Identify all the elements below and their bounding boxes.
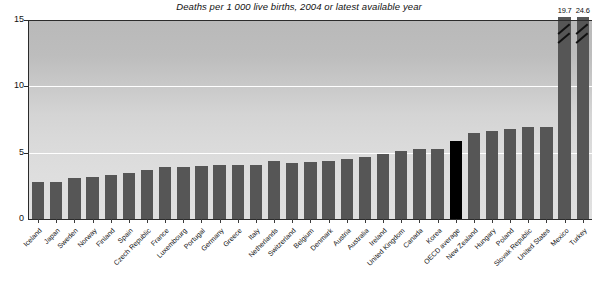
bar-series: 19.724.6 (29, 20, 592, 219)
bar-cell (29, 20, 47, 219)
bar-cell (102, 20, 120, 219)
bar-cell (447, 20, 465, 219)
y-tick-label-15: 15 (2, 14, 24, 24)
bar-korea[interactable] (431, 149, 443, 219)
category-label-cell: Canada (410, 223, 428, 281)
bar-cell (483, 20, 501, 219)
bar-value-label: 19.7 (558, 6, 572, 15)
axis-break-icon (557, 33, 572, 51)
category-label-cell: New Zealand (465, 223, 483, 281)
bar-cell (47, 20, 65, 219)
bar-cell (156, 20, 174, 219)
bar-cell (392, 20, 410, 219)
category-label-cell: Switzerland (283, 223, 301, 281)
category-label-cell: Denmark (320, 223, 338, 281)
category-label-cell: Turkey (574, 223, 592, 281)
bar-cell (338, 20, 356, 219)
bar-cell (174, 20, 192, 219)
category-label-cell: Austria (338, 223, 356, 281)
bar-cell (120, 20, 138, 219)
bar-cell (465, 20, 483, 219)
bar-cell (519, 20, 537, 219)
category-label-cell: United States (537, 223, 555, 281)
category-labels: IcelandJapanSwedenNorwayFinlandSpainCzec… (29, 223, 592, 281)
bar-czech-republic[interactable] (141, 170, 153, 219)
bar-cell (83, 20, 101, 219)
bar-united-kingdom[interactable] (395, 151, 407, 219)
axis-break-icon (575, 33, 590, 51)
bar-poland[interactable] (504, 129, 516, 219)
category-label-cell: Iceland (29, 223, 47, 281)
category-label-text: Italy (247, 227, 261, 241)
category-label-cell: Sweden (65, 223, 83, 281)
bar-value-label: 24.6 (576, 6, 590, 15)
category-label-cell: Japan (47, 223, 65, 281)
bar-cell (537, 20, 555, 219)
bar-cell (138, 20, 156, 219)
category-label-cell: Greece (229, 223, 247, 281)
bar-sweden[interactable] (68, 178, 80, 219)
chart-title: Deaths per 1 000 live births, 2004 or la… (0, 1, 598, 12)
category-label-cell: Hungary (483, 223, 501, 281)
category-label-cell: Finland (102, 223, 120, 281)
category-label-cell: United Kingdom (392, 223, 410, 281)
bar-cell (247, 20, 265, 219)
bar-cell (265, 20, 283, 219)
bar-cell (320, 20, 338, 219)
bar-turkey[interactable]: 24.6 (577, 17, 589, 219)
category-label-cell: Belgium (301, 223, 319, 281)
bar-cell (283, 20, 301, 219)
category-label-cell: Mexico (556, 223, 574, 281)
bar-cell (428, 20, 446, 219)
bar-cell (192, 20, 210, 219)
bar-australia[interactable] (359, 157, 371, 219)
category-label-cell: Czech Republic (138, 223, 156, 281)
bar-italy[interactable] (250, 165, 262, 219)
bar-cell (229, 20, 247, 219)
category-label-cell: Australia (356, 223, 374, 281)
y-tick-label-10: 10 (2, 80, 24, 90)
bar-cell (410, 20, 428, 219)
category-label-cell: Norway (83, 223, 101, 281)
bar-cell (301, 20, 319, 219)
bar-slovak-republic[interactable] (522, 127, 534, 219)
y-tick-label-5: 5 (2, 147, 24, 157)
bar-cell (65, 20, 83, 219)
category-label-cell: Luxembourg (174, 223, 192, 281)
bar-cell (356, 20, 374, 219)
category-label-cell: Germany (211, 223, 229, 281)
infant-mortality-bar-chart: Deaths per 1 000 live births, 2004 or la… (0, 0, 598, 282)
bar-cell (374, 20, 392, 219)
category-label-text: Iceland (22, 227, 43, 248)
bar-iceland[interactable] (32, 182, 44, 219)
bar-cell (211, 20, 229, 219)
category-label-cell: Portugal (192, 223, 210, 281)
bar-oecd-average[interactable] (450, 141, 462, 219)
bar-mexico[interactable]: 19.7 (558, 17, 570, 219)
y-tick-label-0: 0 (2, 213, 24, 223)
plot-area: 19.724.6 (29, 20, 592, 219)
bar-cell: 24.6 (574, 20, 592, 219)
bar-cell: 19.7 (556, 20, 574, 219)
bar-cell (501, 20, 519, 219)
bar-netherlands[interactable] (268, 161, 280, 219)
